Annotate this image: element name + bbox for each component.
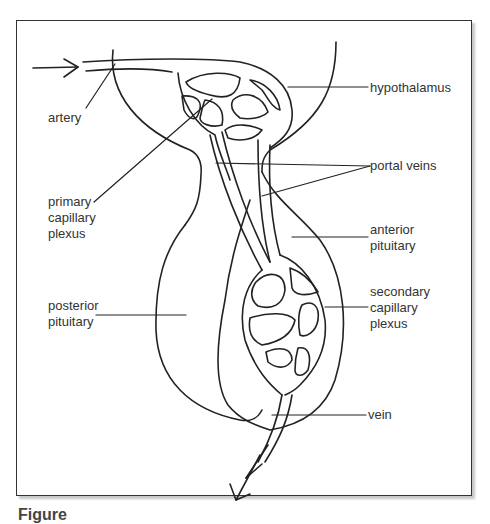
label-portal-veins: portal veins — [370, 158, 436, 174]
outflow-arrow-icon — [230, 455, 260, 500]
outflow-vein — [246, 395, 292, 478]
inflow-arrow-icon — [33, 59, 78, 77]
artery-vessel — [83, 59, 292, 148]
label-posterior-pituitary: posterior pituitary — [48, 298, 99, 330]
leader-lines — [86, 64, 370, 415]
label-artery: artery — [48, 110, 81, 126]
label-secondary-capillary-plexus: secondary capillary plexus — [370, 284, 430, 332]
posterior-pituitary-outline — [156, 225, 262, 421]
label-anterior-pituitary: anterior pituitary — [370, 222, 416, 254]
figure-caption: Figure — [18, 506, 67, 524]
secondary-capillary-plexus — [242, 255, 325, 395]
label-hypothalamus: hypothalamus — [370, 80, 451, 96]
label-primary-capillary-plexus: primary capillary plexus — [48, 194, 96, 242]
label-vein: vein — [368, 407, 392, 423]
